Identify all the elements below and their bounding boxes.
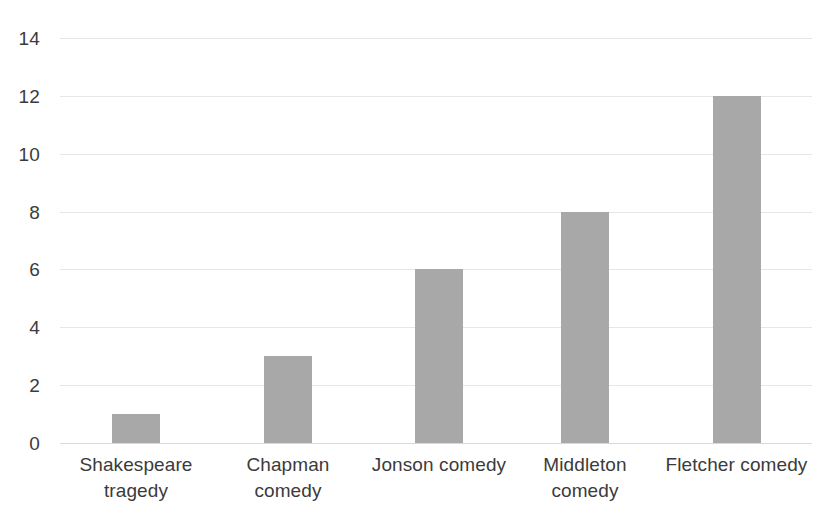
bar-middleton-comedy[interactable]	[561, 212, 609, 443]
bar-jonson-comedy[interactable]	[415, 269, 463, 443]
x-axis-tick-labels: Shakespeare tragedy Chapman comedy Jonso…	[60, 452, 812, 518]
y-axis-tick-label: 14	[0, 29, 40, 48]
bars	[60, 38, 812, 443]
bar-shakespeare-tragedy[interactable]	[112, 414, 160, 443]
x-axis-tick-label-fletcher-comedy: Fletcher comedy	[664, 452, 809, 478]
y-axis-tick-label: 10	[0, 145, 40, 164]
y-axis-tick-label: 4	[0, 318, 40, 337]
x-axis-tick-label-jonson-comedy: Jonson comedy	[369, 452, 509, 478]
y-axis-tick-label: 0	[0, 434, 40, 453]
x-axis-tick-label-shakespeare-tragedy: Shakespeare tragedy	[71, 452, 201, 504]
y-axis-tick-label: 12	[0, 87, 40, 106]
y-axis-tick-label: 8	[0, 203, 40, 222]
x-axis-tick-label-middleton-comedy: Middleton comedy	[530, 452, 640, 504]
plot-area	[60, 38, 812, 443]
bar-fletcher-comedy[interactable]	[713, 96, 761, 443]
bar-chapman-comedy[interactable]	[264, 356, 312, 443]
x-axis-tick-label-chapman-comedy: Chapman comedy	[238, 452, 338, 504]
gridline-0-baseline	[60, 443, 812, 444]
y-axis-tick-label: 2	[0, 376, 40, 395]
bar-chart: 14 12 10 8 6 4 2 0 Shakespeare tra	[0, 0, 833, 524]
y-axis-tick-label: 6	[0, 260, 40, 279]
